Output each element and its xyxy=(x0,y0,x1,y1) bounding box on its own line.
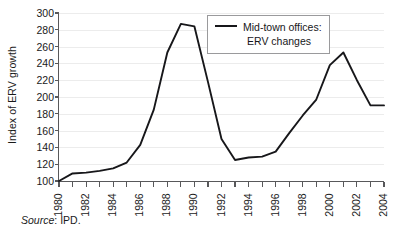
x-tick-label: 1994 xyxy=(242,188,254,224)
x-tick-mark xyxy=(356,182,357,187)
x-tick-label: 2004 xyxy=(377,188,389,224)
y-tick-label: 220 xyxy=(24,75,54,86)
y-tick-label: 280 xyxy=(24,25,54,36)
y-tick-label: 240 xyxy=(24,58,54,69)
y-axis-title-text: Index of ERV growth xyxy=(6,46,18,144)
y-tick-label: 120 xyxy=(24,159,54,170)
x-tick-mark xyxy=(329,182,330,187)
x-tick-mark xyxy=(383,182,384,187)
x-tick-label-text: 1984 xyxy=(106,188,118,222)
x-tick-label-text: 1996 xyxy=(269,188,281,222)
x-tick-mark xyxy=(275,182,276,187)
x-tick-label: 1986 xyxy=(133,188,145,224)
x-tick-mark xyxy=(370,182,371,187)
legend-label-line1: Mid-town offices: xyxy=(243,21,322,33)
x-tick-mark xyxy=(126,182,127,187)
x-tick-mark xyxy=(343,182,344,187)
x-tick-mark xyxy=(180,182,181,187)
legend: Mid-town offices: ERV changes xyxy=(207,15,330,54)
x-tick-label-text: 1990 xyxy=(187,188,199,222)
x-tick-mark xyxy=(86,182,87,187)
y-tick-label: 300 xyxy=(24,8,54,19)
x-tick-mark xyxy=(289,182,290,187)
x-tick-label-text: 2000 xyxy=(323,188,335,222)
x-tick-label-text: 1982 xyxy=(79,188,91,222)
x-tick-label-text: 2002 xyxy=(350,188,362,222)
x-tick-mark xyxy=(262,182,263,187)
x-tick-mark xyxy=(167,182,168,187)
source-value: IPD. xyxy=(60,214,80,226)
x-tick-mark xyxy=(234,182,235,187)
x-tick-label: 1984 xyxy=(106,188,118,224)
x-tick-mark xyxy=(113,182,114,187)
x-tick-mark xyxy=(194,182,195,187)
x-tick-label: 1992 xyxy=(215,188,227,224)
legend-label: Mid-town offices: ERV changes xyxy=(243,20,322,48)
x-tick-label-text: 2004 xyxy=(377,188,389,222)
x-tick-label: 2002 xyxy=(350,188,362,224)
y-tick-label: 260 xyxy=(24,42,54,53)
x-tick-mark xyxy=(302,182,303,187)
y-tick-label: 100 xyxy=(24,176,54,187)
y-tick-label: 180 xyxy=(24,109,54,120)
source-note: Source: IPD. xyxy=(21,214,81,226)
x-tick-label: 1982 xyxy=(79,188,91,224)
x-tick-label: 2000 xyxy=(323,188,335,224)
chart-figure: Index of ERV growth 10012014016018020022… xyxy=(0,0,396,236)
legend-line-swatch xyxy=(215,20,237,32)
x-tick-mark xyxy=(153,182,154,187)
x-tick-label: 1988 xyxy=(160,188,172,224)
x-tick-mark xyxy=(316,182,317,187)
y-tick-label: 200 xyxy=(24,92,54,103)
y-axis-title: Index of ERV growth xyxy=(0,0,24,190)
x-tick-label-text: 1994 xyxy=(242,188,254,222)
x-tick-label-text: 1992 xyxy=(215,188,227,222)
source-label: Source xyxy=(21,214,54,226)
x-tick-mark xyxy=(140,182,141,187)
x-tick-mark xyxy=(248,182,249,187)
x-tick-mark xyxy=(207,182,208,187)
x-tick-label: 1990 xyxy=(187,188,199,224)
x-tick-label-text: 1988 xyxy=(160,188,172,222)
x-axis-labels: 1980198219841986198819901992199419961998… xyxy=(58,188,388,228)
x-tick-label: 1998 xyxy=(296,188,308,224)
x-tick-mark xyxy=(99,182,100,187)
x-tick-label-text: 1998 xyxy=(296,188,308,222)
x-tick-mark xyxy=(58,182,59,187)
y-tick-label: 160 xyxy=(24,126,54,137)
legend-label-line2: ERV changes xyxy=(243,34,322,48)
x-tick-mark xyxy=(221,182,222,187)
x-tick-mark xyxy=(72,182,73,187)
x-tick-label-text: 1986 xyxy=(133,188,145,222)
x-tick-label: 1996 xyxy=(269,188,281,224)
source-separator: : xyxy=(54,214,57,226)
y-tick-label: 140 xyxy=(24,142,54,153)
